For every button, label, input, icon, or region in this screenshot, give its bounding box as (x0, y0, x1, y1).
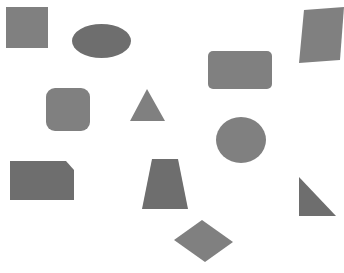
shape-ellipse: Ellipse (72, 24, 131, 58)
shapes-canvas: SquareEllipseParallelogramRounded rectan… (0, 0, 344, 273)
shape-rounded-square: Rounded square (46, 88, 90, 131)
shape-parallelogram: Parallelogram (299, 7, 344, 63)
shape-square: Square (6, 7, 48, 48)
shape-rounded-rectangle: Rounded rectangle (208, 51, 272, 89)
shape-circle: Circle (216, 117, 266, 163)
shape-chamfered-rectangle: Chamfered rectangle (10, 161, 74, 200)
canvas-background (0, 0, 344, 273)
shapes-illustration: SquareEllipseParallelogramRounded rectan… (0, 0, 344, 273)
